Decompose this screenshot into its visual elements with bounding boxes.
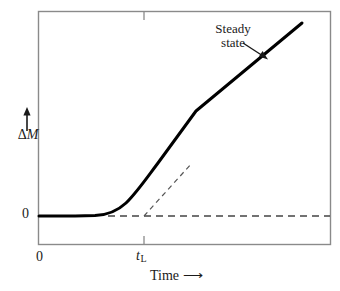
y-axis-label: ΔM [10, 128, 46, 143]
x-axis-label-text: Time [150, 268, 179, 283]
origin-zero-label: 0 [36, 250, 43, 265]
steady-state-annotation: Steady state [196, 22, 270, 49]
x-axis-label: Time⟶ [150, 269, 203, 284]
steady-state-annotation-line1: Steady [215, 21, 250, 36]
y-axis-label-variable: M [27, 127, 39, 142]
y-axis-zero-tick-label: 0 [22, 207, 29, 222]
x-axis-tick-label-tl: tL [136, 249, 147, 265]
permeation-time-lag-figure: ΔM 0 0 tL Time⟶ Steady state [0, 0, 340, 291]
right-arrow-icon: ⟶ [183, 269, 203, 284]
steady-state-annotation-line2: state [196, 36, 270, 50]
tl-subscript: L [140, 253, 146, 264]
plot-canvas [0, 0, 340, 291]
y-axis-label-delta: Δ [18, 127, 27, 142]
